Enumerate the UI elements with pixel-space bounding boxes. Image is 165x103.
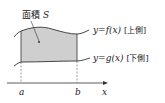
upper-curve-label: y=f(x) [上側] <box>93 26 146 35</box>
lower-curve-label: y=g(x) [下側] <box>93 54 149 63</box>
x-axis-arrow-icon <box>103 81 108 85</box>
area-symbol: S <box>43 10 49 20</box>
lower-eq: = <box>98 53 106 63</box>
tick-label-b: b <box>75 88 81 97</box>
lower-tag: [下側] <box>126 54 148 63</box>
area-label-text: 面積 <box>22 10 40 20</box>
upper-tag: [上側] <box>124 26 146 35</box>
lower-fn: g(x) <box>106 53 124 63</box>
upper-fn: f(x) <box>106 25 121 35</box>
tick-label-a: a <box>19 88 24 97</box>
x-axis-label: x <box>102 88 107 97</box>
upper-eq: = <box>98 25 106 35</box>
area-label: 面積 S <box>22 11 49 20</box>
leader-dot <box>38 41 40 43</box>
shaded-area <box>21 27 77 62</box>
